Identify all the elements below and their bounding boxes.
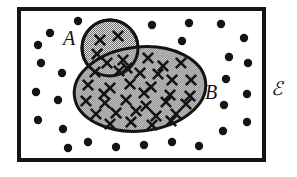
set-a-label: A [61,27,76,49]
element-dot [58,69,66,77]
venn-diagram-canvas: A B ℰ [0,0,297,177]
element-dot [140,141,148,149]
element-dot [178,37,186,45]
element-dot [46,29,54,37]
element-dot [219,127,227,135]
element-dot [34,41,42,49]
element-dot [64,144,72,152]
element-dot [220,101,228,109]
universal-set-label: ℰ [271,78,285,99]
element-dot [54,96,62,104]
element-dot [240,34,248,42]
element-dot [243,90,251,98]
element-dot [37,59,45,67]
element-dot [243,118,251,126]
element-dot [59,125,67,133]
element-dot [244,59,252,67]
set-b-label: B [205,81,217,103]
element-dot [195,142,203,150]
element-dot [148,21,156,29]
element-dot [84,138,92,146]
element-dot [112,143,120,151]
element-dot [34,116,42,124]
element-dot [168,138,176,146]
element-dot [32,88,40,96]
element-dot [74,17,82,25]
element-dot [185,19,193,27]
venn-diagram-figure: A B ℰ [0,0,297,177]
element-dot [222,75,230,83]
element-dot [225,53,233,61]
element-dot [217,20,225,28]
